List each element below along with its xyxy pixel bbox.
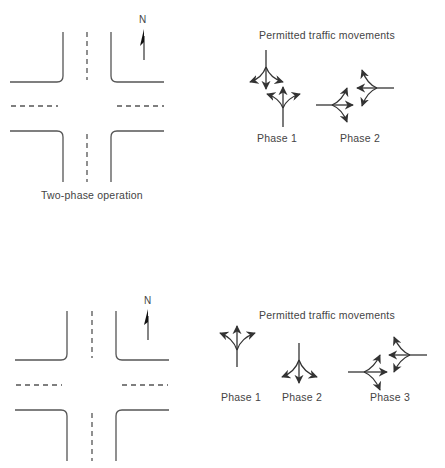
curb-nw bbox=[15, 311, 67, 360]
curb-se bbox=[116, 410, 169, 461]
phase-label: Phase 1 bbox=[257, 132, 297, 144]
phase-label: Phase 2 bbox=[282, 391, 322, 403]
intersection-top bbox=[10, 32, 164, 182]
phase2-top-arrows-icon bbox=[316, 70, 394, 122]
curb-se bbox=[111, 131, 164, 182]
phase-label: Phase 2 bbox=[340, 132, 380, 144]
curb-sw bbox=[10, 131, 63, 182]
lane-centerlines bbox=[11, 32, 164, 182]
movements-heading: Permitted traffic movements bbox=[259, 309, 395, 321]
north-label: N bbox=[144, 295, 151, 306]
phase1-bottom-arrows-icon bbox=[220, 326, 255, 367]
phase-label: Phase 3 bbox=[370, 391, 410, 403]
curb-ne bbox=[116, 311, 169, 360]
phase-label: Phase 1 bbox=[221, 391, 261, 403]
curb-ne bbox=[111, 32, 164, 82]
curb-nw bbox=[10, 32, 63, 82]
phase3-bottom-arrows-icon bbox=[348, 337, 427, 390]
north-label: N bbox=[139, 14, 146, 25]
curb-sw bbox=[15, 410, 67, 461]
north-arrow-icon bbox=[140, 29, 144, 60]
phase2-bottom-arrows-icon bbox=[282, 343, 317, 383]
north-arrow-icon bbox=[144, 309, 148, 340]
movements-heading: Permitted traffic movements bbox=[259, 29, 395, 41]
intersection-bottom bbox=[15, 311, 169, 461]
phase1-top-arrows-icon bbox=[250, 50, 300, 127]
lane-centerlines bbox=[16, 311, 168, 461]
diagram-caption: Two-phase operation bbox=[41, 189, 143, 201]
